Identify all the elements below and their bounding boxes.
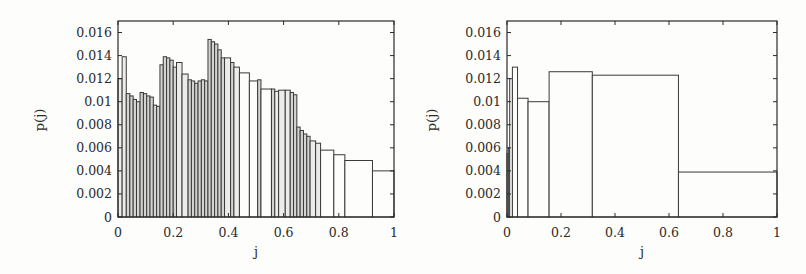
- y-axis-label: p(j): [32, 109, 47, 132]
- histogram-bar: [182, 74, 188, 217]
- y-tick-label: 0.01: [473, 94, 501, 109]
- histogram-bar: [518, 98, 529, 217]
- histogram-bar: [345, 161, 373, 217]
- y-tick-label: 0.012: [465, 71, 501, 86]
- y-tick-label: 0.004: [465, 163, 501, 178]
- x-axis-label: j: [252, 244, 258, 259]
- bars: [118, 39, 394, 217]
- histogram-bar: [126, 94, 130, 217]
- y-tick-label: 0.006: [465, 140, 501, 155]
- x-tick-label: 0: [114, 225, 122, 240]
- y-tick-label: 0.016: [465, 25, 501, 40]
- right-histogram: p(j) j 00.0020.0040.0060.0080.010.0120.0…: [403, 0, 806, 274]
- histogram-bar: [239, 73, 249, 217]
- histogram-bar: [316, 143, 321, 217]
- histogram-bar: [279, 90, 286, 217]
- histogram-bar: [275, 91, 279, 217]
- y-tick-label: 0.01: [84, 94, 112, 109]
- y-tick-label: 0.008: [465, 117, 501, 132]
- y-tick-label: 0.014: [76, 48, 112, 63]
- y-tick-label: 0.012: [76, 71, 112, 86]
- histogram-bar: [321, 150, 334, 217]
- histogram-bar: [310, 141, 316, 217]
- histogram-bar: [234, 67, 240, 217]
- bars: [507, 67, 777, 217]
- x-tick-label: 0.8: [329, 225, 349, 240]
- x-tick-label: 0.4: [605, 225, 625, 240]
- y-tick-label: 0.002: [465, 186, 501, 201]
- histogram-bar: [249, 81, 257, 217]
- x-axis-label: j: [638, 244, 644, 259]
- histogram-bar: [122, 57, 126, 217]
- histogram-bar: [512, 67, 517, 217]
- histogram-bar: [334, 155, 345, 217]
- y-tick-label: 0.008: [76, 117, 112, 132]
- histogram-bar: [261, 89, 271, 217]
- x-tick-label: 0.6: [274, 225, 294, 240]
- left-histogram: p(j) j 00.0020.0040.0060.0080.010.0120.0…: [0, 0, 403, 274]
- y-tick-label: 0.004: [76, 163, 112, 178]
- histogram-bar: [592, 75, 678, 217]
- y-tick-label: 0.006: [76, 140, 112, 155]
- y-tick-label: 0.002: [76, 186, 112, 201]
- left-histogram-panel: p(j) j 00.0020.0040.0060.0080.010.0120.0…: [0, 0, 403, 274]
- x-tick-label: 0.4: [218, 225, 238, 240]
- x-tick-label: 0.2: [163, 225, 183, 240]
- x-tick-label: 0.8: [713, 225, 733, 240]
- x-tick-label: 1: [773, 225, 781, 240]
- histogram-bar: [528, 102, 549, 217]
- histogram-bar: [177, 63, 183, 217]
- x-tick-label: 0.6: [659, 225, 679, 240]
- y-axis-label: p(j): [424, 109, 439, 132]
- x-tick-label: 1: [390, 225, 398, 240]
- y-tick-label: 0.016: [76, 25, 112, 40]
- y-tick-label: 0: [493, 210, 501, 225]
- histogram-bar: [678, 172, 777, 217]
- y-tick-label: 0.014: [465, 48, 501, 63]
- right-histogram-panel: p(j) j 00.0020.0040.0060.0080.010.0120.0…: [403, 0, 806, 274]
- x-tick-label: 0.2: [551, 225, 571, 240]
- histogram-bar: [225, 58, 231, 217]
- y-tick-label: 0: [104, 210, 112, 225]
- histogram-bar: [285, 90, 290, 217]
- x-tick-label: 0: [503, 225, 511, 240]
- histogram-bar: [136, 102, 140, 217]
- histogram-bar: [549, 72, 592, 217]
